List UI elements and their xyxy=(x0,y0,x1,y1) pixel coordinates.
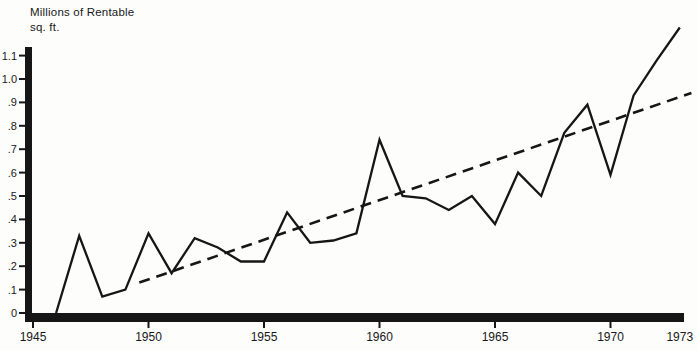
y-tick-label: .3 xyxy=(8,237,17,249)
y-tick-label: .7 xyxy=(8,143,17,155)
y-tick-label: 1.1 xyxy=(2,50,17,62)
y-tick-label: .6 xyxy=(8,167,17,179)
chart-svg: 0.1.2.3.4.5.6.7.8.91.01.1194519501955196… xyxy=(0,0,698,350)
trend-line xyxy=(139,93,691,283)
x-axis-bar xyxy=(25,313,684,322)
y-tick-label: .9 xyxy=(8,96,17,108)
x-tick-label: 1945 xyxy=(20,330,47,344)
y-tick-label: 1.0 xyxy=(2,73,17,85)
y-tick-label: .8 xyxy=(8,120,17,132)
y-tick-label: .4 xyxy=(8,213,17,225)
y-tick-label: 0 xyxy=(11,307,17,319)
x-tick-label: 1973 xyxy=(666,330,693,344)
y-axis-bar xyxy=(25,47,32,322)
y-tick-label: .1 xyxy=(8,284,17,296)
chart-canvas: Millions of Rentable sq. ft. 0.1.2.3.4.5… xyxy=(0,0,698,350)
x-tick-label: 1960 xyxy=(366,330,393,344)
x-tick-label: 1955 xyxy=(251,330,278,344)
x-tick-label: 1950 xyxy=(135,330,162,344)
rentable-space-annual xyxy=(56,28,680,314)
x-tick-label: 1970 xyxy=(597,330,624,344)
y-tick-label: .5 xyxy=(8,190,17,202)
y-tick-label: .2 xyxy=(8,260,17,272)
x-tick-label: 1965 xyxy=(482,330,509,344)
